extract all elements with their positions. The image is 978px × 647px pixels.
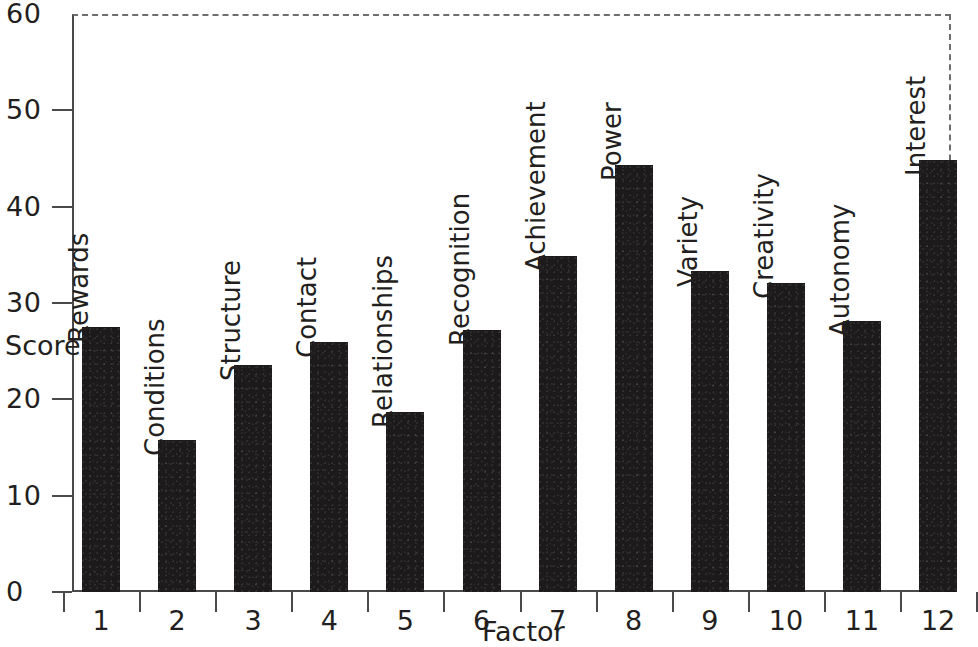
bar-label: Conditions bbox=[142, 318, 168, 456]
bar bbox=[539, 256, 577, 592]
y-axis-tick bbox=[52, 495, 72, 497]
x-axis-tick-label: 1 bbox=[71, 607, 131, 634]
y-axis-tick-label: 30 bbox=[6, 289, 46, 316]
x-axis-tick-label: 8 bbox=[604, 607, 664, 634]
bar-label: Relationships bbox=[370, 255, 396, 428]
y-axis-tick-label: 10 bbox=[6, 482, 46, 509]
x-axis-tick bbox=[139, 592, 141, 612]
x-axis-tick bbox=[215, 592, 217, 612]
bar-label: Interest bbox=[903, 76, 929, 176]
y-axis-tick bbox=[52, 109, 72, 111]
y-axis-tick-label: 0 bbox=[6, 578, 46, 605]
x-axis-tick bbox=[291, 592, 293, 612]
bar bbox=[310, 342, 348, 592]
x-axis-title: Factor bbox=[482, 618, 565, 645]
bar bbox=[691, 271, 729, 592]
bar-label: Power bbox=[599, 103, 625, 182]
x-axis-tick-label: 10 bbox=[756, 607, 816, 634]
x-axis-tick bbox=[63, 592, 65, 612]
bar bbox=[463, 330, 501, 592]
bar-label: Autonomy bbox=[827, 204, 853, 337]
y-axis-tick bbox=[52, 206, 72, 208]
bar-label: Recognition bbox=[447, 193, 473, 346]
bar-label: Creativity bbox=[751, 173, 777, 299]
x-axis-tick-label: 12 bbox=[908, 607, 968, 634]
bar-label: Contact bbox=[294, 257, 320, 358]
x-axis-tick bbox=[672, 592, 674, 612]
bar bbox=[843, 321, 881, 592]
x-axis-tick-label: 5 bbox=[375, 607, 435, 634]
x-axis-tick bbox=[748, 592, 750, 612]
bar bbox=[158, 440, 196, 592]
x-axis-tick bbox=[520, 592, 522, 612]
y-axis-tick-label: 60 bbox=[6, 0, 46, 27]
bar-label: Variety bbox=[675, 196, 701, 287]
x-axis-tick-label: 3 bbox=[223, 607, 283, 634]
y-axis-tick-label: 20 bbox=[6, 385, 46, 412]
bar-label: Achievement bbox=[523, 101, 549, 272]
bar bbox=[386, 412, 424, 592]
x-axis-tick-label: 11 bbox=[832, 607, 892, 634]
x-axis-tick-label: 4 bbox=[299, 607, 359, 634]
x-axis-tick-label: 2 bbox=[147, 607, 207, 634]
x-axis-tick bbox=[900, 592, 902, 612]
y-axis-tick-label: 40 bbox=[6, 193, 46, 220]
bar bbox=[615, 165, 653, 592]
x-axis-tick bbox=[443, 592, 445, 612]
x-axis-tick bbox=[824, 592, 826, 612]
bar bbox=[82, 327, 120, 592]
x-axis-tick bbox=[367, 592, 369, 612]
bar bbox=[767, 283, 805, 592]
bar bbox=[919, 160, 957, 592]
plot-frame bbox=[72, 14, 951, 592]
x-axis-tick-label: 9 bbox=[680, 607, 740, 634]
y-axis-tick bbox=[52, 398, 72, 400]
bar-label: Rewards bbox=[66, 233, 92, 343]
bar-label: Structure bbox=[218, 260, 244, 381]
y-axis-tick-label: 50 bbox=[6, 96, 46, 123]
bar bbox=[234, 365, 272, 592]
x-axis-tick bbox=[596, 592, 598, 612]
